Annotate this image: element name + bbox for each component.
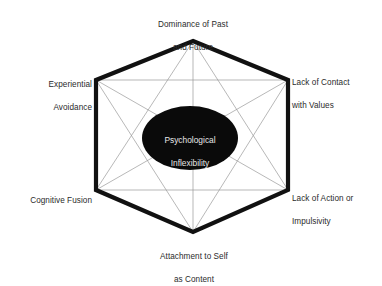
node-label-line1: Attachment to Self [131,251,257,262]
node-label-line1: Cognitive Fusion [4,195,92,206]
node-label-lack-of-action-or-impulsivity: Lack of Action or Impulsivity [292,182,380,238]
center-ellipse [142,106,238,170]
node-label-attachment-to-self-as-content: Attachment to Self as Content [131,240,257,286]
node-label-line2: and Future [131,42,255,53]
node-label-line2: with Values [292,100,378,111]
node-label-line2: as Content [131,274,257,285]
node-label-cognitive-fusion: Cognitive Fusion [4,184,92,218]
node-label-experiential-avoidance: Experiential Avoidance [8,68,92,124]
node-label-lack-of-contact-with-values: Lack of Contact with Values [292,66,378,122]
node-label-line1: Lack of Contact [292,77,378,88]
node-label-line1: Lack of Action or [292,193,380,204]
node-label-dominance-of-past-and-future: Dominance of Past and Future [131,8,255,64]
node-label-line2: Impulsivity [292,216,380,227]
node-label-line1: Experiential [8,79,92,90]
node-label-line1: Dominance of Past [131,19,255,30]
node-label-line2: Avoidance [8,102,92,113]
